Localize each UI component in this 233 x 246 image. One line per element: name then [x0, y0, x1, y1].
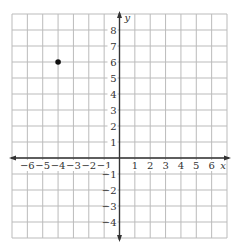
y-tick-label: 3	[110, 105, 116, 116]
y-tick-label: 7	[110, 41, 116, 52]
x-tick-label: −5	[35, 160, 50, 171]
x-tick-label: 6	[208, 160, 214, 171]
x-tick-label: 5	[193, 160, 199, 171]
data-point	[55, 59, 61, 65]
x-tick-label: −4	[51, 160, 66, 171]
y-tick-label: 5	[110, 73, 116, 84]
y-tick-label: −4	[102, 217, 117, 228]
x-tick-label: 1	[132, 160, 138, 171]
y-tick-label: 8	[110, 25, 116, 36]
y-tick-label: 6	[110, 57, 116, 68]
data-points	[55, 59, 61, 65]
y-tick-label: −1	[102, 169, 117, 180]
y-tick-label: 1	[110, 137, 116, 148]
y-axis-label: y	[124, 12, 131, 23]
y-tick-label: 4	[110, 89, 116, 100]
x-tick-label: 2	[147, 160, 153, 171]
coordinate-plane: −6−5−4−3−2−112345687654321−1−2−3−4xy	[0, 0, 233, 246]
x-tick-label: −6	[20, 160, 35, 171]
y-tick-label: −2	[102, 185, 117, 196]
tick-labels: −6−5−4−3−2−112345687654321−1−2−3−4xy	[20, 12, 226, 228]
y-tick-label: 2	[110, 121, 116, 132]
x-tick-label: −3	[66, 160, 81, 171]
x-axis-label: x	[220, 160, 226, 171]
x-tick-label: −2	[81, 160, 96, 171]
x-tick-label: 4	[178, 160, 184, 171]
y-tick-label: −3	[102, 201, 117, 212]
x-tick-label: 3	[162, 160, 168, 171]
